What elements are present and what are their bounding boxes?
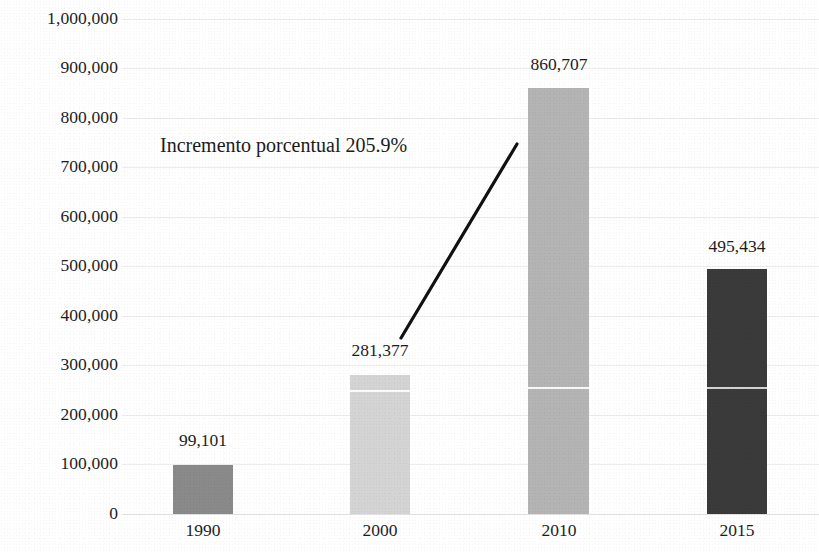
plot-area: 1,000,000 900,000 800,000 700,000 600,00… — [0, 0, 819, 552]
x-axis-tick-label-1990: 1990 — [143, 522, 263, 540]
bar-value-label-2000: 281,377 — [320, 342, 440, 360]
bar-value-label-1990: 99,101 — [143, 432, 263, 450]
x-axis-tick-label-2000: 2000 — [320, 522, 440, 540]
y-axis-tick-label: 600,000 — [6, 208, 118, 226]
y-axis-tick-label: 0 — [6, 505, 118, 523]
y-axis-tick-label: 500,000 — [6, 257, 118, 275]
gridline-800000 — [122, 118, 819, 119]
gridline-500000 — [122, 266, 819, 267]
y-axis-tick-label: 800,000 — [6, 109, 118, 127]
y-axis-tick-label: 100,000 — [6, 455, 118, 473]
gridline-zero-baseline — [122, 514, 819, 515]
gridline-1000000 — [122, 19, 819, 20]
annotation-increment-percent: Incremento porcentual 205.9% — [160, 134, 407, 156]
bar-2000[interactable] — [350, 375, 410, 514]
bar-fill — [350, 375, 410, 514]
gridline-900000 — [122, 68, 819, 69]
x-axis-tick-label-2015: 2015 — [677, 522, 797, 540]
bar-1990[interactable] — [173, 465, 233, 514]
bar-fill — [528, 88, 589, 514]
y-axis-tick-label: 200,000 — [6, 406, 118, 424]
x-axis-tick-label-2010: 2010 — [498, 522, 620, 540]
bar-fill — [707, 269, 767, 514]
gridline-600000 — [122, 217, 819, 218]
y-axis-tick-label: 300,000 — [6, 356, 118, 374]
bar-value-label-2010: 860,707 — [498, 56, 620, 74]
bar-2010[interactable] — [528, 88, 589, 514]
scan-fold-line — [707, 387, 767, 389]
y-axis-tick-label: 1,000,000 — [6, 10, 118, 28]
y-axis-tick-label: 700,000 — [6, 158, 118, 176]
bar-value-label-2015: 495,434 — [677, 238, 797, 256]
bar-2015[interactable] — [707, 269, 767, 514]
scan-fold-line — [350, 390, 410, 392]
y-axis-tick-label: 900,000 — [6, 59, 118, 77]
bar-chart: 1,000,000 900,000 800,000 700,000 600,00… — [0, 0, 819, 552]
gridline-700000 — [122, 167, 819, 168]
bar-fill — [173, 465, 233, 514]
scan-fold-line — [528, 387, 589, 389]
y-axis-tick-label: 400,000 — [6, 307, 118, 325]
